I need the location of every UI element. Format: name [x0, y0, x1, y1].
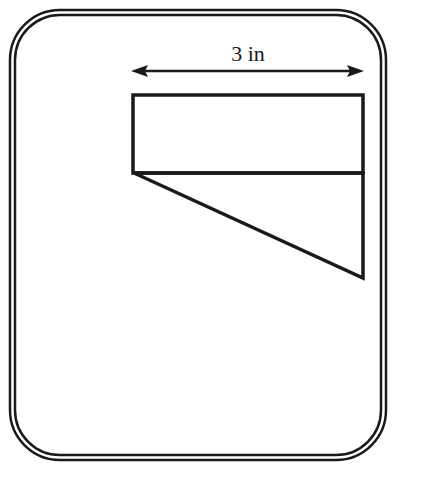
rounded-double-border [10, 10, 386, 460]
border-outer-rect [10, 10, 386, 460]
dimension-label: 3 in [231, 41, 265, 66]
dimension-line-group [131, 65, 364, 77]
geometry-figure-svg: 3 in [0, 0, 423, 491]
top-rectangle-shape [133, 95, 363, 173]
border-inner-rect [15, 15, 381, 455]
figure-canvas: 3 in [0, 0, 423, 491]
lower-right-triangle-shape [134, 173, 363, 278]
